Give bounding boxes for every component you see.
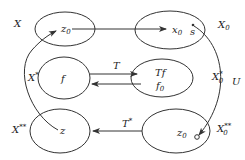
set-X0star: X*0 Tf f0 <box>131 59 224 97</box>
label-X0starstar: X**0 <box>216 122 232 137</box>
point-open-dot <box>195 135 200 140</box>
point-f: f <box>60 73 67 84</box>
point-x0: x0 <box>172 24 183 37</box>
point-z0-top: z0 <box>60 23 71 36</box>
point-Tf: Tf <box>155 67 168 78</box>
point-z0-bottom: z0 <box>176 127 187 140</box>
commutative-diagram: X z0 X0 x0 s X* f X*0 Tf f0 T X** z X**0… <box>0 0 245 160</box>
label-X: X <box>13 18 22 29</box>
point-s: s <box>190 26 195 37</box>
point-f0: f0 <box>155 80 165 93</box>
set-X0: X0 x0 s <box>135 11 230 49</box>
set-X0starstar: X**0 z0 <box>142 109 232 153</box>
point-z: z <box>59 125 66 136</box>
set-Xstarstar: X** z <box>11 109 90 153</box>
label-Xstar: X* <box>27 71 39 83</box>
label-U: U <box>232 76 241 87</box>
label-X0: X0 <box>217 19 230 32</box>
ellipse-X0starstar <box>142 109 210 153</box>
label-Tstar: T* <box>122 117 133 129</box>
label-X0star: X*0 <box>211 70 224 85</box>
set-Xstar: X* f <box>27 57 90 99</box>
label-T: T <box>113 60 121 71</box>
label-Xstarstar: X** <box>11 123 27 135</box>
